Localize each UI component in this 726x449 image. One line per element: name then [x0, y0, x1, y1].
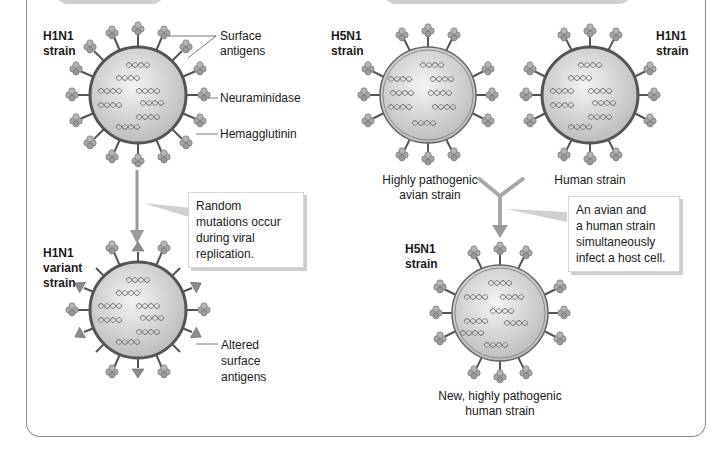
mutation-callout: Random mutations occur during viral repl… [188, 192, 304, 268]
h1n1-human-strain-label: H1N1 strain [656, 29, 689, 59]
avian-h5n1-virus-icon [358, 24, 498, 165]
altered-surface-antigens-label: Altered surface antigens [221, 337, 266, 385]
h1n1-variant-strain-label: H1N1 variant strain [43, 246, 82, 291]
h5n1-new-strain-label: H5N1 strain [405, 242, 438, 272]
callout-pointer [143, 203, 192, 218]
human-h1n1-virus-icon [520, 24, 660, 165]
h5n1-avian-strain-label: H5N1 strain [331, 29, 364, 59]
avian-strain-caption: Highly pathogenic avian strain [370, 173, 490, 203]
human-strain-caption: Human strain [540, 173, 640, 188]
surface-antigens-label: Surface antigens [220, 29, 280, 59]
callout-pointer [506, 209, 567, 222]
mutation-arrow-icon [130, 170, 144, 244]
new-h5n1-virus-icon [430, 242, 570, 383]
h1n1-virus-icon [66, 22, 210, 167]
neuraminidase-label: Neuraminidase [220, 91, 301, 106]
hemagglutinin-label: Hemagglutinin [220, 127, 297, 142]
coinfection-callout: An avian and a human strain simultaneous… [568, 196, 680, 272]
new-strain-caption: New, highly pathogenic human strain [430, 389, 570, 419]
h1n1-strain-label: H1N1 strain [43, 29, 76, 59]
